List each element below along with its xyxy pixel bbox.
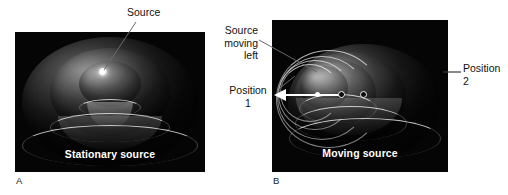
source-point-marker-a	[99, 68, 107, 76]
callout-position-1-line-1: Position	[218, 84, 278, 97]
cutaway-rim-middle-a	[50, 113, 170, 142]
panel-b-moving-source: Moving source	[272, 20, 448, 172]
callout-source-moving-line-3: left	[213, 49, 258, 62]
source-point-marker-b	[315, 92, 320, 97]
callout-position-1: Position 1	[218, 84, 278, 109]
position-1-marker	[338, 91, 345, 98]
cutaway-rim-inner-a	[79, 99, 141, 116]
callout-position-2-line-1: Position	[463, 62, 507, 75]
compressed-wavefront-1	[280, 64, 340, 122]
panel-letter-a: A	[16, 175, 22, 186]
callout-source-moving-line-1: Source	[213, 24, 258, 37]
panel-b-caption: Moving source	[272, 147, 448, 159]
motion-arrow-shaft	[284, 94, 342, 96]
position-2-marker	[360, 91, 367, 98]
callout-source-label: Source	[127, 6, 160, 19]
callout-position-1-line-2: 1	[218, 97, 278, 110]
callout-position-2-line-2: 2	[463, 75, 507, 88]
callout-position-2: Position 2	[463, 62, 507, 87]
panel-letter-b: B	[273, 175, 279, 186]
callout-source-moving-line-2: moving	[213, 37, 258, 50]
panel-a-caption: Stationary source	[15, 148, 205, 160]
doppler-figure: Stationary source Moving source Source S…	[0, 0, 508, 195]
callout-source-moving-left: Source moving left	[213, 24, 258, 62]
panel-a-stationary-source: Stationary source	[15, 32, 205, 172]
